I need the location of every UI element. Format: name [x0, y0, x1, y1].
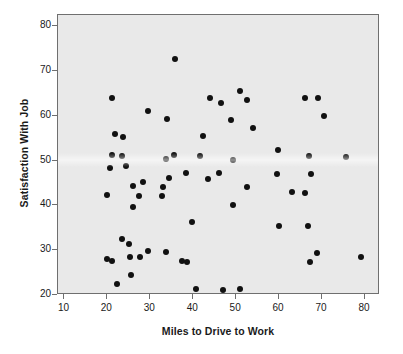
data-point: [163, 249, 169, 255]
data-point: [183, 170, 189, 176]
data-point: [189, 219, 195, 225]
data-point: [166, 175, 172, 181]
data-point: [119, 236, 125, 242]
data-point: [136, 193, 142, 199]
x-tick-label: 60: [265, 302, 291, 313]
data-point: [193, 286, 199, 292]
x-tick-mark: [106, 294, 107, 299]
data-point: [123, 163, 129, 169]
x-tick-label: 80: [351, 302, 377, 313]
data-point: [306, 153, 312, 159]
data-point: [305, 223, 311, 229]
x-tick-mark: [149, 294, 150, 299]
data-point: [274, 171, 280, 177]
x-tick-mark: [192, 294, 193, 299]
y-tick-label: 30: [27, 244, 51, 254]
data-point: [205, 176, 211, 182]
scatter-plot-figure: Satisfaction With Job 20304050607080 102…: [0, 0, 403, 354]
data-point: [120, 134, 126, 140]
data-point: [128, 272, 134, 278]
x-tick-mark: [235, 294, 236, 299]
x-tick-label: 10: [50, 302, 76, 313]
x-tick-label: 70: [308, 302, 334, 313]
data-point: [308, 171, 314, 177]
data-point: [126, 241, 132, 247]
data-point: [276, 223, 282, 229]
data-point: [302, 190, 308, 196]
x-tick-label: 30: [136, 302, 162, 313]
y-tick-label: 50: [27, 155, 51, 165]
data-point: [315, 95, 321, 101]
y-tick-mark: [52, 294, 57, 295]
x-tick-label: 40: [179, 302, 205, 313]
data-point: [244, 184, 250, 190]
data-point: [112, 131, 118, 137]
data-point: [114, 281, 120, 287]
x-tick-mark: [321, 294, 322, 299]
data-point: [171, 152, 177, 158]
data-point: [230, 202, 236, 208]
x-tick-mark: [278, 294, 279, 299]
y-tick-label: 80: [27, 20, 51, 30]
data-point: [228, 117, 234, 123]
data-point: [358, 254, 364, 260]
data-point: [164, 116, 170, 122]
y-tick-label: 40: [27, 199, 51, 209]
data-point: [307, 259, 313, 265]
data-point: [137, 254, 143, 260]
data-point: [119, 153, 125, 159]
y-tick-label: 20: [27, 289, 51, 299]
y-tick-label: 60: [27, 110, 51, 120]
data-point: [237, 286, 243, 292]
y-tick-label: 70: [27, 65, 51, 75]
data-point: [172, 56, 178, 62]
x-axis-title: Miles to Drive to Work: [57, 325, 379, 337]
data-point: [289, 189, 295, 195]
data-point: [207, 95, 213, 101]
data-point: [159, 193, 165, 199]
data-point: [109, 95, 115, 101]
data-point: [160, 184, 166, 190]
data-point: [230, 157, 236, 163]
data-point: [163, 156, 169, 162]
data-point: [244, 97, 250, 103]
data-point: [107, 165, 113, 171]
data-point: [216, 170, 222, 176]
data-point: [140, 179, 146, 185]
data-point: [197, 153, 203, 159]
data-point: [343, 154, 349, 160]
data-point: [127, 254, 133, 260]
x-tick-mark: [364, 294, 365, 299]
data-point: [220, 287, 226, 293]
data-point: [302, 95, 308, 101]
data-point: [109, 152, 115, 158]
data-point: [275, 147, 281, 153]
data-point: [145, 248, 151, 254]
data-point: [237, 88, 243, 94]
x-tick-label: 50: [222, 302, 248, 313]
data-point: [218, 100, 224, 106]
data-point: [130, 183, 136, 189]
data-point: [200, 133, 206, 139]
data-point: [184, 259, 190, 265]
data-point: [321, 113, 327, 119]
x-tick-label: 20: [93, 302, 119, 313]
plot-area: [57, 14, 379, 294]
data-point: [109, 258, 115, 264]
y-axis-title: Satisfaction With Job: [16, 6, 32, 300]
data-point: [145, 108, 151, 114]
x-tick-mark: [63, 294, 64, 299]
data-point: [250, 125, 256, 131]
data-point: [104, 192, 110, 198]
data-point: [314, 250, 320, 256]
data-point: [130, 204, 136, 210]
